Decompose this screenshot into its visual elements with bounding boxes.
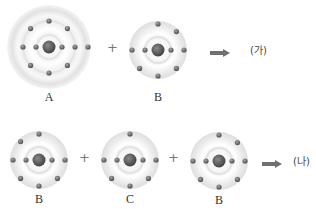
electron-icon <box>198 177 203 182</box>
electron-icon <box>129 47 134 52</box>
electron-icon <box>235 140 240 145</box>
electron-icon <box>216 132 221 137</box>
electron-icon <box>242 158 247 163</box>
atom-b <box>189 131 249 191</box>
electron-icon <box>155 21 160 26</box>
electron-icon <box>28 26 33 31</box>
electron-icon <box>46 70 51 75</box>
electron-icon <box>216 184 221 189</box>
electron-icon <box>127 183 132 188</box>
atom-c <box>100 130 160 190</box>
atom-label-c: C <box>120 192 140 207</box>
product-label-ga: (가) <box>250 42 267 57</box>
electron-icon <box>23 157 28 162</box>
electron-icon <box>85 44 90 49</box>
atom-label-a: A <box>39 90 59 105</box>
electron-icon <box>55 176 60 181</box>
plus-sign: + <box>168 150 179 165</box>
atom-label-b: B <box>209 193 229 208</box>
electron-icon <box>72 44 77 49</box>
electron-icon <box>153 157 158 162</box>
right-arrow-icon <box>210 44 230 62</box>
nucleus-icon <box>152 44 165 57</box>
nucleus-icon <box>124 154 137 167</box>
electron-icon <box>28 63 33 68</box>
electron-icon <box>168 47 173 52</box>
electron-icon <box>18 139 23 144</box>
electron-icon <box>18 176 23 181</box>
atom-b <box>9 130 69 190</box>
electron-icon <box>59 44 64 49</box>
electron-icon <box>127 131 132 136</box>
electron-icon <box>155 73 160 78</box>
electron-icon <box>181 47 186 52</box>
electron-icon <box>109 176 114 181</box>
electron-icon <box>142 47 147 52</box>
atom-a <box>6 4 92 90</box>
electron-icon <box>10 157 15 162</box>
electron-icon <box>49 157 54 162</box>
electron-icon <box>174 29 179 34</box>
electron-icon <box>65 26 70 31</box>
nucleus-icon <box>43 41 56 54</box>
atom-label-b: B <box>29 192 49 207</box>
electron-icon <box>36 183 41 188</box>
plus-sign: + <box>107 40 118 55</box>
electron-icon <box>229 158 234 163</box>
electron-icon <box>20 44 25 49</box>
electron-icon <box>101 157 106 162</box>
nucleus-icon <box>213 155 226 168</box>
electron-icon <box>65 63 70 68</box>
electron-icon <box>137 66 142 71</box>
electron-icon <box>235 177 240 182</box>
electron-icon <box>114 157 119 162</box>
electron-icon <box>174 66 179 71</box>
plus-sign: + <box>79 150 90 165</box>
electron-icon <box>62 157 67 162</box>
electron-icon <box>190 158 195 163</box>
electron-icon <box>203 158 208 163</box>
electron-icon <box>140 157 145 162</box>
atom-label-b: B <box>148 90 168 105</box>
nucleus-icon <box>33 154 46 167</box>
atom-b <box>128 20 188 80</box>
product-label-na: (나) <box>293 153 310 168</box>
electron-icon <box>33 44 38 49</box>
electron-icon <box>36 131 41 136</box>
right-arrow-icon <box>262 155 282 173</box>
electron-icon <box>146 176 151 181</box>
electron-icon <box>46 18 51 23</box>
